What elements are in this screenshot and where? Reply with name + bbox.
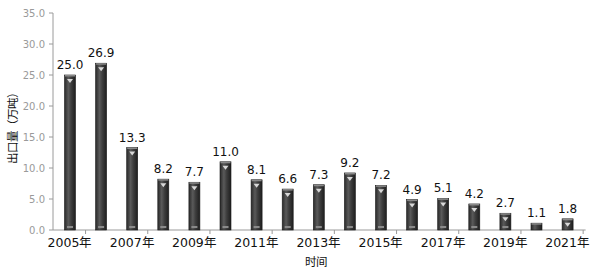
bar-value-label: 25.0 xyxy=(57,58,84,72)
x-tick-label: 2005年 xyxy=(48,235,93,250)
bar: 5.1 xyxy=(434,181,453,230)
y-axis: 0.05.010.015.020.025.030.035.0 xyxy=(23,8,53,236)
bar: 2.7 xyxy=(496,196,515,230)
bar: 1.1 xyxy=(527,206,546,230)
bar: 25.0 xyxy=(57,58,84,230)
x-axis: 2005年2007年2009年2011年2013年2015年2017年2019年… xyxy=(48,230,590,250)
y-axis-title: 出口量（万吨） xyxy=(6,87,20,164)
bar-value-label: 4.9 xyxy=(403,183,422,197)
bar-value-label: 7.3 xyxy=(309,168,328,182)
bar-chart: 0.05.010.015.020.025.030.035.0 2005年2007… xyxy=(0,0,601,278)
bar-value-label: 11.0 xyxy=(212,145,239,159)
y-tick-label: 10.0 xyxy=(23,163,45,174)
bar: 11.0 xyxy=(212,145,239,230)
y-tick-label: 0.0 xyxy=(29,225,45,236)
bar-value-label: 1.1 xyxy=(527,206,546,220)
y-tick-label: 20.0 xyxy=(23,101,45,112)
x-tick-label: 2007年 xyxy=(110,235,155,250)
bar: 13.3 xyxy=(119,131,146,230)
bar-value-label: 7.7 xyxy=(185,165,204,179)
bar: 1.8 xyxy=(558,202,577,230)
bar-value-label: 13.3 xyxy=(119,131,146,145)
bar-value-label: 5.1 xyxy=(434,181,453,195)
bar: 7.2 xyxy=(371,168,390,230)
bar: 8.2 xyxy=(154,162,173,230)
bar-value-label: 26.9 xyxy=(88,46,115,60)
y-tick-label: 25.0 xyxy=(23,70,45,81)
bar-value-label: 2.7 xyxy=(496,196,515,210)
x-tick-label: 2015年 xyxy=(359,235,404,250)
bar: 4.2 xyxy=(465,187,484,230)
x-tick-label: 2019年 xyxy=(483,235,528,250)
x-tick-label: 2011年 xyxy=(234,235,279,250)
y-tick-label: 5.0 xyxy=(29,194,45,205)
x-axis-title: 时间 xyxy=(305,255,327,269)
bar: 7.3 xyxy=(309,168,328,230)
bar-value-label: 9.2 xyxy=(340,156,359,170)
x-tick-label: 2017年 xyxy=(421,235,466,250)
bar: 9.2 xyxy=(340,156,359,230)
bar: 7.7 xyxy=(185,165,204,230)
y-tick-label: 30.0 xyxy=(23,39,45,50)
y-tick-label: 35.0 xyxy=(23,8,45,19)
bar-value-label: 8.1 xyxy=(247,163,266,177)
bar: 6.6 xyxy=(278,172,297,230)
bar: 8.1 xyxy=(247,163,266,230)
y-tick-label: 15.0 xyxy=(23,132,45,143)
bars: 25.026.913.38.27.711.08.16.67.39.27.24.9… xyxy=(57,46,578,230)
bar: 4.9 xyxy=(403,183,422,230)
bar-value-label: 7.2 xyxy=(371,168,390,182)
bar-value-label: 8.2 xyxy=(154,162,173,176)
x-tick-label: 2021年 xyxy=(545,235,590,250)
bar-value-label: 1.8 xyxy=(558,202,577,216)
x-tick-label: 2009年 xyxy=(172,235,217,250)
bar: 26.9 xyxy=(88,46,115,230)
bar-value-label: 6.6 xyxy=(278,172,297,186)
bar-value-label: 4.2 xyxy=(465,187,484,201)
x-tick-label: 2013年 xyxy=(296,235,341,250)
